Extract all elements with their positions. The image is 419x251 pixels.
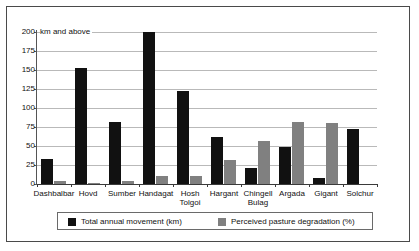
y-tick-label: 200 [5, 28, 35, 36]
chart-legend: Total annual movement (km) Perceived pas… [57, 212, 373, 230]
bar-perceived-pasture-degradation [156, 176, 168, 184]
bar-total-annual-movement [41, 159, 53, 184]
bar-perceived-pasture-degradation [292, 122, 304, 184]
y-tick-label: 100 [5, 104, 35, 112]
bar-group [241, 32, 275, 184]
x-tick-mark [71, 184, 72, 187]
y-tick-label: 150 [5, 66, 35, 74]
y-tick-label: 50 [5, 142, 35, 150]
x-tick-mark [37, 184, 38, 187]
x-tick-mark [207, 184, 208, 187]
y-tick-label: 175 [5, 47, 35, 55]
legend-swatch-icon-0 [68, 218, 76, 226]
bar-group [105, 32, 139, 184]
legend-entry-perceived-pasture-degradation: Perceived pasture degradation (%) [218, 217, 355, 226]
x-tick-mark [173, 184, 174, 187]
x-tick-mark [343, 184, 344, 187]
bar-group [173, 32, 207, 184]
bar-group [37, 32, 71, 184]
legend-label-1: Perceived pasture degradation (%) [231, 217, 355, 226]
y-tick-label: 75 [5, 123, 35, 131]
bar-perceived-pasture-degradation [190, 176, 202, 184]
bar-total-annual-movement [109, 122, 121, 184]
bar-total-annual-movement [347, 129, 359, 184]
x-tick-mark [275, 184, 276, 187]
bar-total-annual-movement [75, 68, 87, 184]
bar-group [275, 32, 309, 184]
bar-total-annual-movement [245, 168, 257, 184]
x-tick-mark [105, 184, 106, 187]
bar-total-annual-movement [279, 147, 291, 184]
bar-perceived-pasture-degradation [326, 123, 338, 184]
bar-group [139, 32, 173, 184]
x-tick-mark [139, 184, 140, 187]
chart-figure: km and above 0255075100125150175200Dashb… [0, 0, 419, 251]
bar-perceived-pasture-degradation [258, 141, 270, 184]
y-tick-label: 25 [5, 161, 35, 169]
bar-group [71, 32, 105, 184]
bar-group [309, 32, 343, 184]
bar-perceived-pasture-degradation [224, 160, 236, 184]
bar-perceived-pasture-degradation [54, 181, 66, 184]
category-label: Solchur [337, 189, 383, 198]
bar-perceived-pasture-degradation [122, 181, 134, 184]
bar-group [207, 32, 241, 184]
x-tick-mark [241, 184, 242, 187]
y-tick-label: 125 [5, 85, 35, 93]
x-tick-mark [309, 184, 310, 187]
bar-group [343, 32, 377, 184]
legend-swatch-icon-1 [218, 218, 226, 226]
bar-total-annual-movement [211, 137, 223, 184]
bar-total-annual-movement [313, 178, 325, 184]
bar-total-annual-movement [177, 91, 189, 184]
bar-perceived-pasture-degradation [88, 183, 100, 184]
x-tick-mark [377, 184, 378, 187]
y-tick-label: 0 [5, 180, 35, 188]
bar-total-annual-movement [143, 32, 155, 184]
legend-label-0: Total annual movement (km) [81, 217, 182, 226]
legend-entry-total-annual-movement: Total annual movement (km) [68, 217, 182, 226]
plot-area: km and above 0255075100125150175200Dashb… [37, 32, 377, 184]
